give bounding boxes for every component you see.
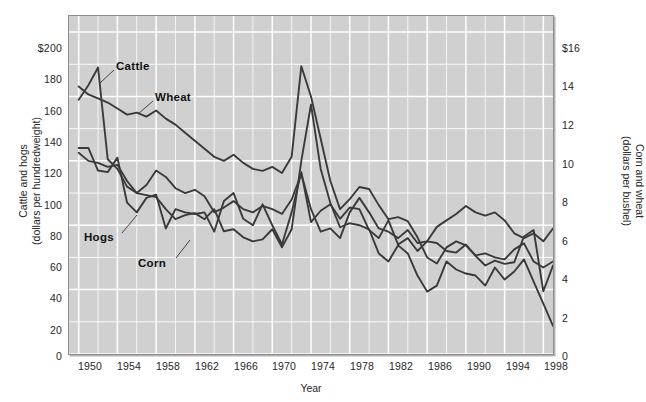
x-axis-title: Year bbox=[269, 382, 353, 394]
y-axis-left-title-line1: Cattle and hogs bbox=[17, 91, 30, 271]
x-tick-12: 1998 bbox=[533, 360, 579, 372]
y-left-tick-9: 20 bbox=[16, 324, 62, 336]
y-left-tick-0: $200 bbox=[16, 42, 62, 54]
y-right-tick-0: $16 bbox=[562, 42, 608, 54]
series-line-wheat bbox=[79, 66, 553, 267]
y-left-tick-1: 180 bbox=[16, 73, 62, 85]
y-axis-left-title: Cattle and hogs (dollars per hundredweig… bbox=[17, 91, 43, 271]
y-left-tick-10: 0 bbox=[16, 350, 62, 362]
y-axis-right-title: Corn and wheat (dollars per bushel) bbox=[620, 91, 646, 271]
y-right-tick-6: 4 bbox=[562, 273, 608, 285]
y-axis-right-title-line2: (dollars per bushel) bbox=[620, 91, 633, 271]
series-label-corn: Corn bbox=[138, 257, 166, 269]
y-axis-right-title-line1: Corn and wheat bbox=[633, 91, 646, 271]
y-right-tick-2: 12 bbox=[562, 119, 608, 131]
series-label-wheat: Wheat bbox=[155, 91, 191, 103]
y-right-tick-5: 6 bbox=[562, 235, 608, 247]
y-right-tick-7: 2 bbox=[562, 312, 608, 324]
series-label-cattle: Cattle bbox=[116, 60, 150, 72]
y-axis-left-title-line2: (dollars per hundredweight) bbox=[30, 91, 43, 271]
y-right-tick-3: 10 bbox=[562, 158, 608, 170]
y-left-tick-8: 40 bbox=[16, 292, 62, 304]
y-right-tick-4: 8 bbox=[562, 196, 608, 208]
y-right-tick-1: 14 bbox=[562, 80, 608, 92]
series-label-hogs: Hogs bbox=[84, 231, 114, 243]
